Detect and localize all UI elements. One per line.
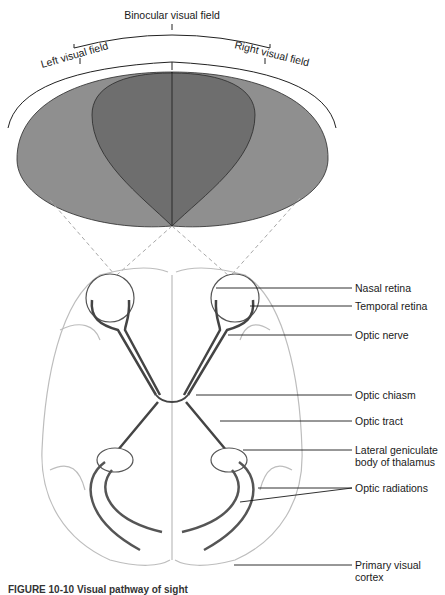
label-lateral-geniculate: Lateral geniculate body of thalamus bbox=[355, 444, 445, 468]
label-optic-nerve: Optic nerve bbox=[355, 329, 409, 341]
label-optic-tract: Optic tract bbox=[355, 415, 403, 427]
right-radiations bbox=[182, 462, 253, 550]
label-optic-radiations: Optic radiations bbox=[355, 482, 428, 494]
label-nasal-retina: Nasal retina bbox=[355, 282, 411, 294]
label-temporal-retina: Temporal retina bbox=[355, 300, 427, 312]
right-lgn bbox=[211, 448, 247, 472]
brain-outline bbox=[42, 268, 302, 565]
right-field-label: Right visual field bbox=[234, 38, 311, 68]
left-lgn bbox=[97, 448, 133, 472]
left-radiations bbox=[91, 462, 162, 550]
label-optic-chiasm: Optic chiasm bbox=[355, 389, 416, 401]
label-primary-visual-cortex: Primary visual cortex bbox=[355, 559, 435, 583]
figure-caption: FIGURE 10-10 Visual pathway of sight bbox=[8, 584, 188, 595]
binocular-field-label: Binocular visual field bbox=[124, 9, 220, 21]
visual-fields bbox=[17, 72, 328, 227]
left-field-label: Left visual field bbox=[39, 39, 109, 70]
